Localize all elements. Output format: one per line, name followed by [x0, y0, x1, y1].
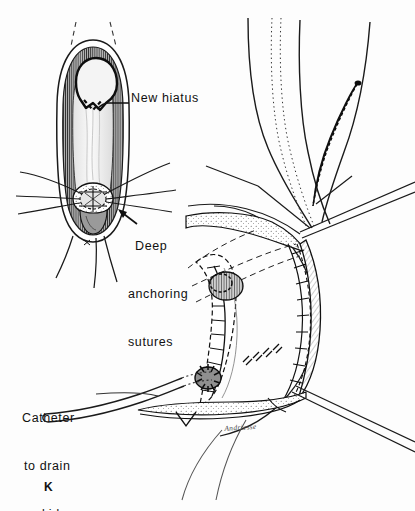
- label-deep-anchoring-line1: Deep: [124, 238, 188, 254]
- label-catheter-line1: Catheter: [22, 410, 82, 426]
- label-deep-anchoring-line3: sutures: [124, 334, 188, 350]
- surgical-illustration-plate: New hiatus Deep anchoring sutures Cathet…: [0, 0, 415, 511]
- label-deep-anchoring-line2: anchoring: [124, 286, 188, 302]
- figure-letter-label: K: [44, 480, 53, 495]
- label-new-hiatus: New hiatus: [131, 90, 199, 106]
- flap-aperture: [209, 272, 243, 300]
- label-catheter-line3: kidney: [22, 506, 82, 511]
- label-catheter-line2: to drain: [22, 458, 82, 474]
- label-deep-anchoring-sutures: Deep anchoring sutures: [124, 206, 188, 382]
- tapered-tube-apex-knot: [355, 80, 362, 85]
